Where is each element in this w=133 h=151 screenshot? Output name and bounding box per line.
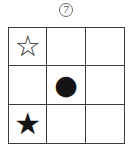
grid-cell-r3c2 bbox=[47, 105, 85, 143]
grid-cell-r2c1 bbox=[9, 66, 47, 104]
worksheet-figure: 7 ☆ ● ★ bbox=[0, 0, 133, 151]
grid-cell-r3c3 bbox=[86, 105, 124, 143]
grid-cell-r1c2 bbox=[47, 28, 85, 66]
filled-circle-icon: ● bbox=[54, 71, 78, 98]
grid-cell-r2c3 bbox=[86, 66, 124, 104]
grid-cell-r1c1: ☆ bbox=[9, 28, 47, 66]
filled-star-icon: ★ bbox=[14, 109, 41, 139]
grid-cell-r3c1: ★ bbox=[9, 105, 47, 143]
puzzle-grid: ☆ ● ★ bbox=[8, 27, 125, 144]
grid-cell-r1c3 bbox=[86, 28, 124, 66]
open-star-icon: ☆ bbox=[15, 32, 41, 61]
item-number-label: 7 bbox=[63, 5, 69, 14]
grid-cell-r2c2: ● bbox=[47, 66, 85, 104]
item-number-badge: 7 bbox=[59, 3, 73, 17]
